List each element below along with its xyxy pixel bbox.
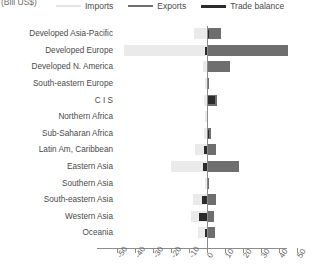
bar-exports bbox=[207, 144, 216, 155]
chart-row: Eastern Asia bbox=[0, 159, 323, 176]
legend-item-exports: Exports bbox=[128, 2, 186, 11]
chart-row: South-eastern Asia bbox=[0, 192, 323, 209]
category-label: South-eastern Asia bbox=[44, 196, 113, 204]
axis-tick-label: 10 bbox=[224, 248, 236, 260]
bar-balance bbox=[207, 96, 215, 104]
bar-exports bbox=[207, 161, 239, 172]
category-label: Northern Africa bbox=[58, 113, 113, 121]
chart-row: C I S bbox=[0, 92, 323, 109]
unit-caption: (Bill US$) bbox=[1, 0, 37, 7]
category-label: Developed N. America bbox=[32, 63, 113, 71]
category-label: Developed Asia-Pacific bbox=[29, 30, 113, 38]
category-label: Western Asia bbox=[65, 213, 113, 221]
bar-exports bbox=[207, 227, 215, 238]
bar-imports bbox=[124, 45, 207, 56]
chart-row: Sub-Saharan Africa bbox=[0, 126, 323, 143]
chart-row: Western Asia bbox=[0, 209, 323, 226]
chart-row: Latin Am, Caribbean bbox=[0, 142, 323, 159]
legend-item-imports: Imports bbox=[56, 2, 113, 11]
axis-tick-label: 0 bbox=[206, 251, 215, 259]
axis-tick-label: 20 bbox=[242, 248, 254, 260]
axis-tick-label: 50 bbox=[296, 248, 308, 260]
bar-rows: Developed Asia-PacificDeveloped EuropeDe… bbox=[0, 26, 323, 242]
chart-row: Developed N. America bbox=[0, 59, 323, 76]
category-label: Latin Am, Caribbean bbox=[39, 146, 113, 154]
axis-tick-label: 30 bbox=[260, 248, 272, 260]
bar-balance bbox=[199, 213, 207, 221]
legend-label: Imports bbox=[85, 2, 113, 11]
chart-legend: ImportsExportsTrade balance bbox=[56, 2, 284, 11]
legend-swatch-imports-icon bbox=[56, 5, 81, 7]
legend-item-balance: Trade balance bbox=[201, 2, 284, 11]
bar-exports bbox=[207, 61, 230, 72]
category-label: Oceania bbox=[83, 229, 114, 237]
bar-exports bbox=[207, 194, 216, 205]
bar-imports bbox=[171, 161, 207, 172]
category-label: Southern Asia bbox=[62, 180, 113, 188]
bar-exports bbox=[207, 28, 221, 39]
axis-tick-label: 40 bbox=[278, 248, 290, 260]
category-label: Developed Europe bbox=[45, 47, 113, 55]
category-label: South-eastern Europe bbox=[33, 80, 113, 88]
chart-row: Oceania bbox=[0, 225, 323, 242]
chart-row: Northern Africa bbox=[0, 109, 323, 126]
legend-swatch-exports-icon bbox=[128, 5, 153, 7]
chart-row: South-eastern Europe bbox=[0, 76, 323, 93]
bar-exports bbox=[207, 45, 289, 56]
chart-row: Developed Asia-Pacific bbox=[0, 26, 323, 43]
legend-label: Trade balance bbox=[230, 2, 284, 11]
category-label: Sub-Saharan Africa bbox=[42, 130, 113, 138]
plot-area: Developed Asia-PacificDeveloped EuropeDe… bbox=[0, 26, 323, 242]
legend-swatch-balance-icon bbox=[201, 5, 226, 8]
category-label: Eastern Asia bbox=[67, 163, 113, 171]
bar-imports bbox=[194, 28, 207, 39]
zero-axis-line bbox=[207, 26, 208, 248]
category-label: C I S bbox=[95, 97, 113, 105]
chart-root: (Bill US$) ImportsExportsTrade balance D… bbox=[0, 0, 323, 276]
chart-row: Developed Europe bbox=[0, 43, 323, 60]
x-axis: -50-40-30-20-1001020304050 bbox=[0, 248, 323, 276]
legend-label: Exports bbox=[157, 2, 186, 11]
bar-exports bbox=[207, 211, 214, 222]
chart-row: Southern Asia bbox=[0, 175, 323, 192]
